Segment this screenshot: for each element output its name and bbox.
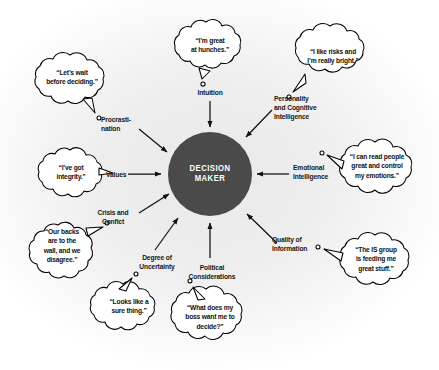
quote-crisis: “Our backs are to the wall, and we disag…	[25, 227, 99, 265]
quote-values: “I’ve got integrity.”	[35, 163, 107, 182]
factor-label-values: Values	[106, 170, 148, 179]
quote-uncertainty: “Looks like a sure thing.”	[88, 297, 171, 316]
arrow-personality	[246, 110, 272, 137]
quote-procrastination: “Let’s wait before deciding.”	[25, 68, 119, 87]
factor-label-procrastination: Procrasti- nation	[101, 115, 156, 133]
factor-label-emotional: Emotional Intelligence	[293, 163, 355, 181]
quote-quality: “The IS group is feeding me great stuff.…	[327, 245, 424, 273]
factor-label-quality: Quality of Information	[272, 235, 334, 253]
factor-label-intuition: Intuition	[175, 88, 245, 97]
factor-label-uncertainty: Degree of Uncertainty	[121, 253, 193, 271]
factor-label-crisis: Crisis and Confict	[80, 208, 147, 226]
quote-intuition: “I’m great at hunches.”	[167, 36, 253, 55]
factor-label-personality: Personality and Cognitive Intelligence	[274, 94, 358, 122]
decision-maker-core-label: DECISION MAKER	[171, 163, 248, 184]
decision-maker-diagram: DECISION MAKER “I’m great at hunches.” I…	[0, 0, 439, 370]
arrow-uncertainty	[155, 218, 178, 250]
quote-political: “What does my boss want me to decide?”	[158, 303, 262, 331]
quote-personality: “I like risks and I’m really bright.”	[283, 47, 384, 66]
